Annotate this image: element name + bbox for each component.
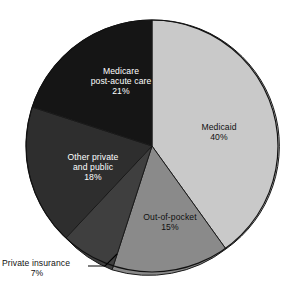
- pie-chart: Medicaid 40% Medicare post-acute care 21…: [0, 0, 286, 295]
- pie-chart-canvas: [0, 0, 286, 295]
